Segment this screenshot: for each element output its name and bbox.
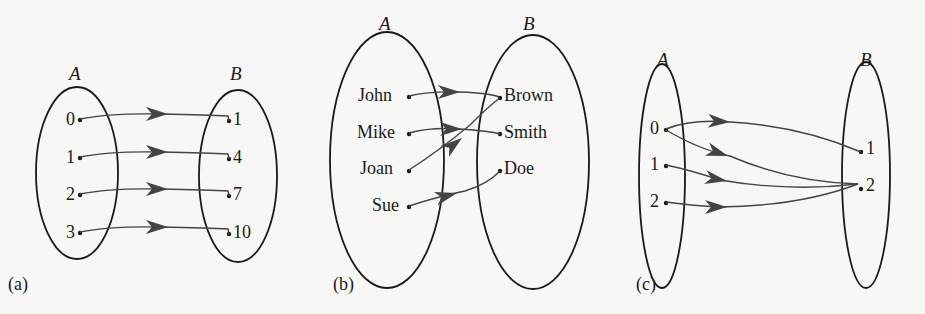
domain-element: Joan [360, 158, 393, 178]
panel-c: A B 0 1 2 1 2 (c) [636, 49, 890, 295]
panel-a: A B 0 1 2 3 1 4 7 10 (a) [8, 63, 277, 295]
mapping-arrows [666, 114, 861, 214]
mapping-arrows [409, 85, 500, 206]
codomain-element: 2 [866, 175, 875, 195]
domain-element: 3 [66, 222, 75, 242]
domain-element: Mike [357, 122, 395, 142]
domain-element: 2 [650, 191, 659, 211]
set-a-ellipse [639, 64, 685, 288]
panel-b: A B John Mike Joan Sue Brown Smith Doe [330, 13, 589, 295]
domain-element: 1 [650, 154, 659, 174]
domain-element: 0 [66, 109, 75, 129]
codomain-element: Smith [504, 122, 547, 142]
codomain-element: Brown [504, 85, 553, 105]
set-b-label: B [523, 13, 535, 34]
codomain-element: 10 [233, 222, 251, 242]
set-a-label: A [377, 13, 391, 34]
codomain-element: 7 [233, 184, 242, 204]
domain-element: John [358, 85, 392, 105]
function-mapping-figure: A B 0 1 2 3 1 4 7 10 (a) [0, 0, 925, 314]
codomain-element: 1 [233, 109, 242, 129]
set-a-label: A [67, 63, 81, 84]
panel-caption: (a) [8, 274, 28, 295]
domain-element: 0 [650, 118, 659, 138]
domain-element: 1 [66, 147, 75, 167]
codomain-element: 1 [866, 138, 875, 158]
panel-caption: (b) [333, 274, 354, 295]
domain-element: Sue [372, 195, 399, 215]
set-b-label: B [230, 63, 242, 84]
set-b-label: B [860, 49, 872, 70]
codomain-element: 4 [233, 147, 242, 167]
panel-caption: (c) [636, 274, 656, 295]
domain-element: 2 [66, 184, 75, 204]
codomain-element: Doe [504, 158, 534, 178]
set-a-ellipse [36, 87, 118, 259]
